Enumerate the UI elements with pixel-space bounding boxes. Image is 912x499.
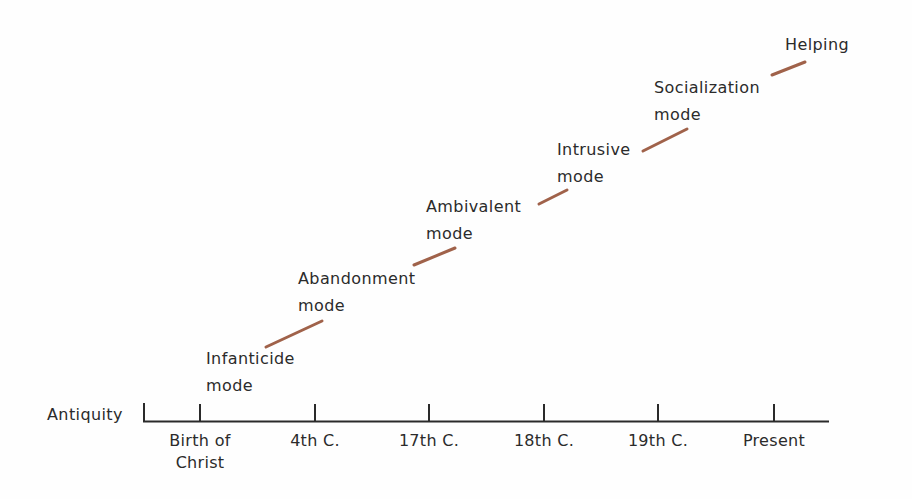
segment-ambivalent-to-intrusive [539, 190, 567, 204]
label-abandonment-mode: Abandonment mode [298, 265, 415, 319]
tick-label-19th-c: 19th C. [598, 430, 718, 452]
segment-infanticide-to-abandonment [266, 321, 322, 347]
axis-start-label: Antiquity [47, 401, 123, 428]
tick-label-18th-c: 18th C. [484, 430, 604, 452]
timeline-axis [143, 403, 829, 422]
label-socialization-mode: Socialization mode [654, 74, 760, 128]
tick-label-birth-of-christ: Birth of Christ [140, 430, 260, 474]
segment-abandonment-to-ambivalent [414, 248, 455, 265]
tick-label-4th-c: 4th C. [255, 430, 375, 452]
psychohistory-modes-diagram: Infanticide mode Abandonment mode Ambiva… [0, 0, 912, 499]
label-infanticide-mode: Infanticide mode [206, 345, 295, 399]
segment-socialization-to-helping [772, 62, 805, 75]
segment-intrusive-to-socialization [643, 129, 687, 151]
label-intrusive-mode: Intrusive mode [557, 136, 631, 190]
tick-label-17th-c: 17th C. [369, 430, 489, 452]
label-ambivalent-mode: Ambivalent mode [426, 193, 521, 247]
label-helping: Helping [785, 31, 849, 58]
diagram-graphics [0, 0, 912, 499]
tick-label-present: Present [714, 430, 834, 452]
